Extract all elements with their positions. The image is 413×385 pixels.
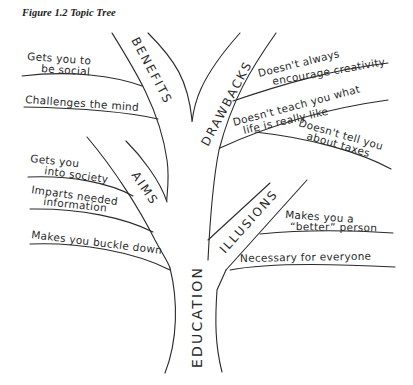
trunk: EDUCATION: [165, 266, 226, 373]
leaf-line: [230, 265, 395, 270]
leaf-text-buckle-down: Makes you buckle down: [31, 228, 163, 256]
leaf-line: [30, 209, 153, 232]
branch-label-benefits: BENEFITS: [128, 35, 175, 107]
trunk-left-edge: [165, 268, 175, 373]
leaf-text-better-2: “better” person: [290, 220, 377, 234]
branch-label-illusions: ILLUSIONS: [217, 187, 281, 256]
trunk-right-edge: [216, 270, 226, 372]
leaf-text-necessary: Necessary for everyone: [240, 250, 372, 264]
branch-aims: AIMS Gets you into society Imparts neede…: [28, 137, 170, 270]
branch-illusions: ILLUSIONS Makes you a “better” person Ne…: [208, 180, 395, 270]
trunk-label: EDUCATION: [189, 266, 205, 368]
topic-tree-diagram: EDUCATION BENEFITS Gets you to be social…: [0, 0, 413, 385]
leaf-text-gets-social-2: be social: [41, 62, 91, 77]
leaf-text-challenges-mind: Challenges the mind: [25, 93, 140, 113]
